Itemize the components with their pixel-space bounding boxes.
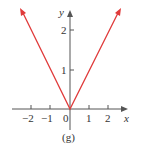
tick-label-neg1: −1 xyxy=(41,112,53,124)
ytick-label-2: 2 xyxy=(61,24,67,36)
origin-label: 0 xyxy=(63,112,69,124)
right-arrow-icon xyxy=(115,8,121,16)
y-axis-arrow-icon xyxy=(67,10,73,17)
graph: −2 −1 0 1 2 x 1 2 y (g) xyxy=(0,0,143,146)
y-ticks xyxy=(70,30,74,70)
tick-label-neg2: −2 xyxy=(22,112,34,124)
tick-label-2: 2 xyxy=(105,112,111,124)
left-arrow-icon xyxy=(20,8,26,16)
tick-label-1: 1 xyxy=(86,112,92,124)
ytick-label-1: 1 xyxy=(61,64,67,76)
x-axis-label: x xyxy=(123,112,129,124)
caption: (g) xyxy=(62,131,75,144)
y-axis-label: y xyxy=(58,6,64,18)
